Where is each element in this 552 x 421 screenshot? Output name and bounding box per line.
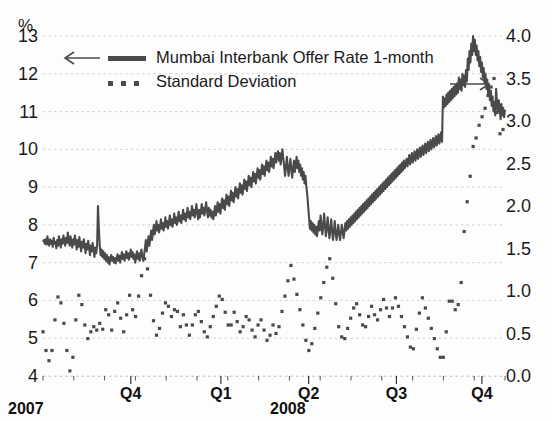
y-axis-right-tick-label: 3.5	[506, 70, 550, 88]
y-axis-right-tick-label: 2.5	[506, 155, 550, 173]
x-axis-quarter-label: Q4	[120, 385, 141, 403]
left-arrow-icon	[62, 50, 102, 66]
y-axis-left: 13121110987654	[0, 0, 38, 421]
y-axis-right-tick-label: 3.0	[506, 112, 550, 130]
y-axis-left-tick-label: 11	[4, 103, 38, 121]
chart-root: % 13121110987654 4.03.53.02.52.01.51.00.…	[0, 0, 552, 421]
legend-label-stddev: Standard Deviation	[156, 72, 296, 91]
x-axis-year-2008: 2008	[270, 400, 306, 418]
legend-swatch-solid-line	[108, 56, 146, 61]
legend-row-mibor: Mumbai Interbank Offer Rate 1-month	[58, 48, 478, 70]
y-axis-left-tick-label: 9	[4, 178, 38, 196]
y-axis-right-tick-label: 0.0	[506, 367, 550, 385]
y-axis-right-tick-label: 4.0	[506, 27, 550, 45]
y-axis-left-tick-label: 4	[4, 367, 38, 385]
y-axis-left-tick-label: 6	[4, 291, 38, 309]
y-axis-right-tick-label: 1.0	[506, 282, 550, 300]
y-axis-left-tick-label: 7	[4, 254, 38, 272]
legend-row-stddev: Standard Deviation	[58, 72, 478, 94]
legend-label-mibor: Mumbai Interbank Offer Rate 1-month	[156, 48, 434, 67]
x-axis-quarter-label: Q3	[386, 385, 407, 403]
x-axis-quarter-label: Q1	[210, 385, 231, 403]
x-axis-year-2007: 2007	[8, 400, 44, 418]
x-axis-ticks	[43, 376, 505, 386]
y-axis-left-tick-label: 5	[4, 329, 38, 347]
y-axis-left-tick-label: 10	[4, 140, 38, 158]
y-axis-left-tick-label: 8	[4, 216, 38, 234]
y-axis-right-tick-label: 1.5	[506, 240, 550, 258]
y-axis-right-tick-label: 2.0	[506, 197, 550, 215]
y-axis-left-tick-label: 13	[4, 27, 38, 45]
chart-legend: Mumbai Interbank Offer Rate 1-month Stan…	[58, 48, 478, 96]
y-axis-right-tick-label: 0.5	[506, 325, 550, 343]
y-axis-left-tick-label: 12	[4, 65, 38, 83]
legend-swatch-dotted-line	[108, 81, 146, 86]
x-axis-quarter-label: Q4	[471, 385, 492, 403]
y-axis-right: 4.03.53.02.52.01.51.00.50.0	[506, 0, 552, 421]
right-arrow-icon	[448, 76, 492, 92]
